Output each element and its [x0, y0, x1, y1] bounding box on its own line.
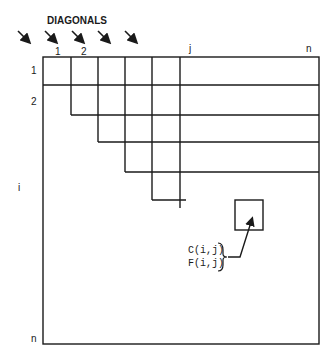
diagonal-staircase	[43, 57, 319, 208]
cell-label-c: C(i,j)	[188, 245, 224, 256]
row-label-n: n	[31, 333, 37, 344]
pointer-arrow-icon	[228, 219, 252, 257]
diagonal-arrow-icon	[18, 31, 29, 42]
diagonal-arrows	[18, 31, 136, 42]
diagonal-matrix-diagram: DIAGONALS 1 2 j n 1 2 i n C(i,j) F(i,j)	[0, 0, 336, 362]
cell-label-f: F(i,j)	[188, 258, 224, 269]
row-label-2: 2	[31, 96, 37, 107]
cell-i-j	[235, 200, 263, 230]
diagonal-label-2: 2	[81, 46, 87, 57]
column-label-j: j	[188, 43, 191, 54]
diagonal-arrow-icon	[45, 31, 56, 42]
diagonal-arrow-icon	[125, 31, 136, 42]
diagonal-arrow-icon	[98, 31, 109, 42]
row-label-i: i	[18, 182, 20, 193]
row-label-1: 1	[31, 65, 37, 76]
column-label-n: n	[306, 43, 312, 54]
diagonals-title: DIAGONALS	[47, 15, 107, 26]
diagonal-arrow-icon	[72, 31, 83, 42]
diagonal-label-1: 1	[55, 46, 61, 57]
